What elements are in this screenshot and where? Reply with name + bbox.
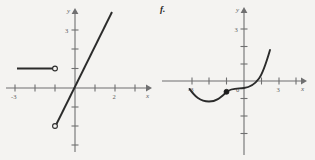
right-graph-svg: -3 0 3 3 x y: [157, 0, 315, 160]
left-x-axis-arrow: [146, 85, 152, 92]
open-circle-point-lower: [53, 124, 58, 129]
part-label-f: f.: [160, 4, 165, 14]
figure-page: -3 2 3 x y: [0, 0, 315, 160]
left-xtick-label-2: 2: [113, 93, 116, 100]
left-graph-panel: -3 2 3 x y: [0, 0, 158, 160]
closed-circle-point: [224, 89, 229, 94]
right-y-axis-arrow: [241, 7, 248, 13]
left-y-axis-label: y: [66, 7, 71, 15]
cubic-curve-path: [190, 50, 271, 102]
right-graph-panel: -3 0 3 3 x y: [157, 0, 315, 160]
right-x-axis-arrow: [301, 78, 307, 85]
left-xtick-label-neg3: -3: [11, 93, 17, 100]
left-y-axis-arrow: [72, 8, 79, 14]
right-y-axis-label: y: [235, 6, 240, 14]
right-xtick-label-3: 3: [277, 86, 281, 93]
right-x-axis-label: x: [300, 85, 305, 93]
left-x-axis: [6, 85, 152, 92]
right-x-axis: [162, 78, 307, 85]
left-x-axis-label: x: [145, 92, 150, 100]
open-circle-point-upper: [53, 66, 58, 71]
right-ytick-label-3: 3: [235, 26, 239, 33]
left-graph-svg: -3 2 3 x y: [0, 0, 158, 160]
left-ytick-label-3: 3: [65, 27, 69, 34]
